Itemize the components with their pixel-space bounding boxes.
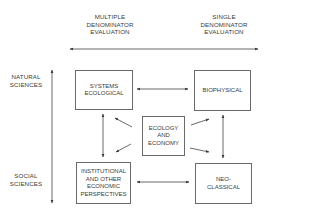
arrow-center-to-institutional <box>116 144 131 152</box>
box-biophysical-label: BIOPHYSICAL <box>202 87 242 95</box>
arrow-center-to-systems <box>115 118 132 127</box>
box-institutional-label: INSTITUTIONAL AND OTHER ECONOMIC PERSPEC… <box>80 168 126 198</box>
box-ecology-and-economy-label: ECOLOGY AND ECONOMY <box>148 125 179 148</box>
arrow-center-to-neoclassical <box>190 148 209 152</box>
box-neoclassical-label: NEO- CLASSICAL <box>207 176 240 191</box>
box-neoclassical: NEO- CLASSICAL <box>195 163 252 204</box>
box-biophysical: BIOPHYSICAL <box>194 70 251 111</box>
box-ecology-and-economy: ECOLOGY AND ECONOMY <box>142 116 185 156</box>
box-systems-ecological: SYSTEMS ECOLOGICAL <box>75 70 133 110</box>
box-systems-ecological-label: SYSTEMS ECOLOGICAL <box>84 83 123 98</box>
box-institutional: INSTITUTIONAL AND OTHER ECONOMIC PERSPEC… <box>76 162 131 204</box>
arrow-center-to-biophysical <box>191 119 209 125</box>
